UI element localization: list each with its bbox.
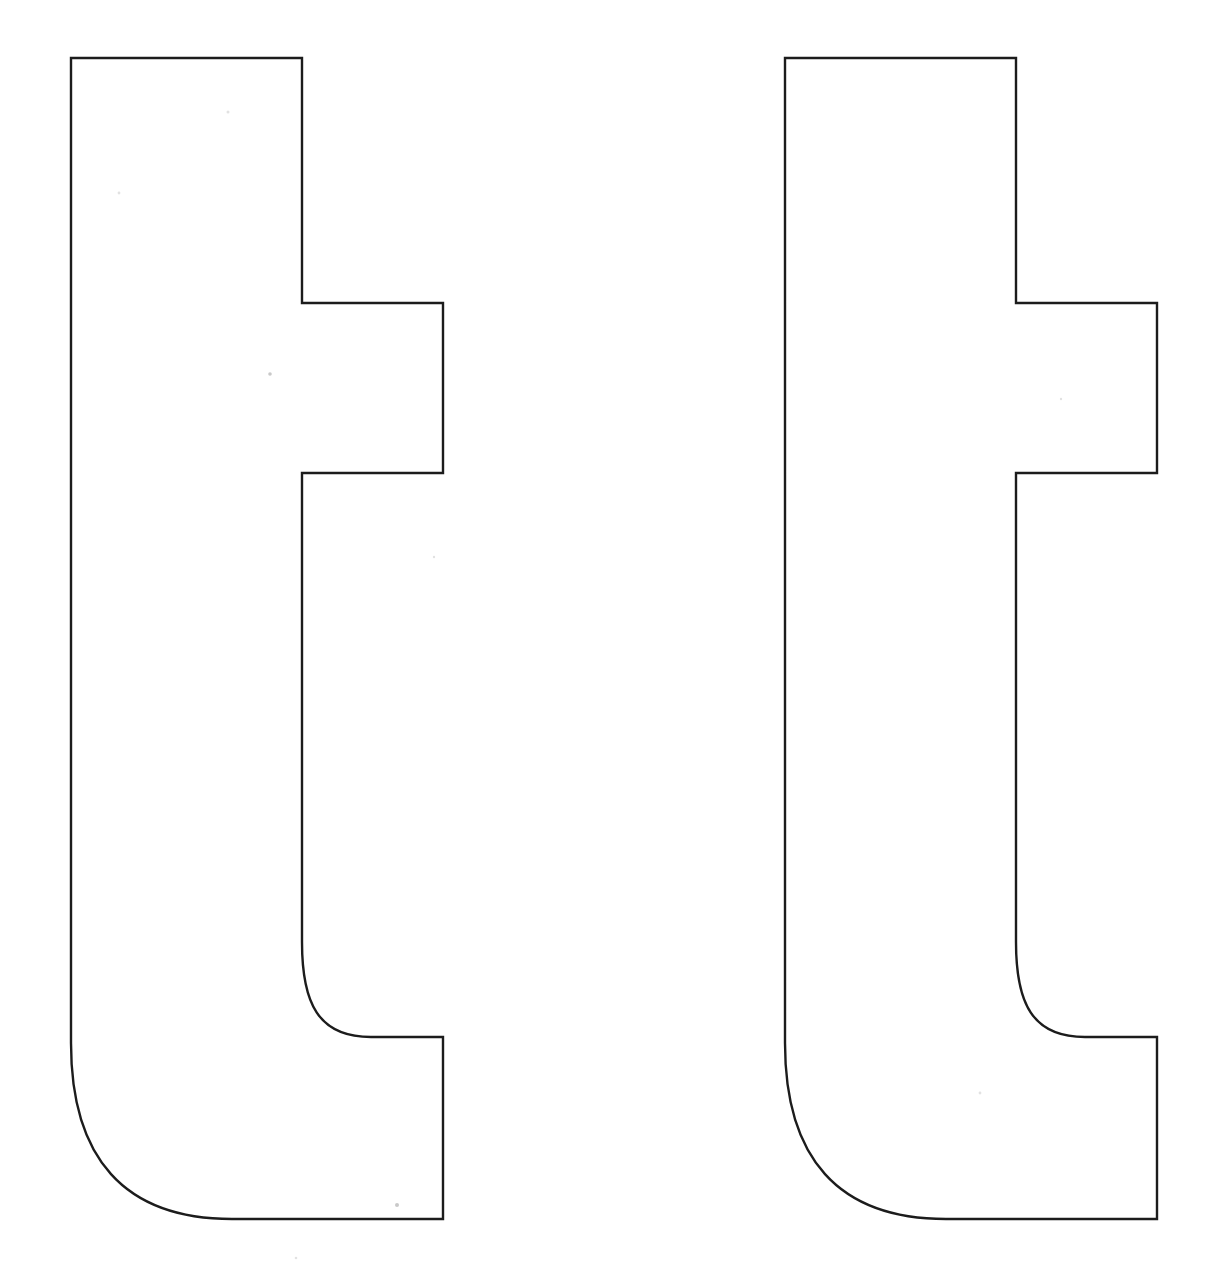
paper-speck — [295, 1257, 298, 1260]
glyph-drawing-surface — [0, 0, 1224, 1284]
paper-speck — [227, 111, 230, 114]
paper-speck — [979, 1092, 982, 1095]
paper-speck — [433, 556, 435, 558]
paper-speck — [118, 192, 121, 195]
paper-speck — [395, 1203, 399, 1207]
paper-speck — [268, 372, 272, 376]
paper-speck — [1060, 398, 1062, 400]
page-canvas — [0, 0, 1224, 1284]
